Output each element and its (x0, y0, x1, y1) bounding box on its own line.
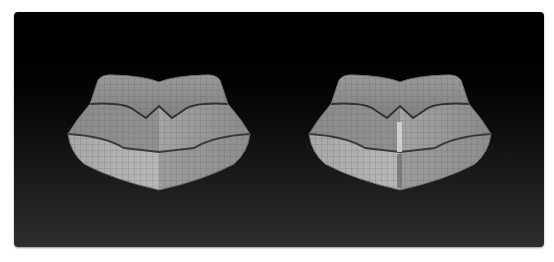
viewport-canvas (14, 12, 544, 247)
center-strip-highlight (397, 122, 402, 152)
center-strip-shadow (397, 154, 402, 188)
lip-mesh-right[interactable] (309, 75, 491, 190)
lip-mesh-left[interactable] (68, 75, 250, 190)
3d-viewport[interactable] (14, 12, 544, 247)
